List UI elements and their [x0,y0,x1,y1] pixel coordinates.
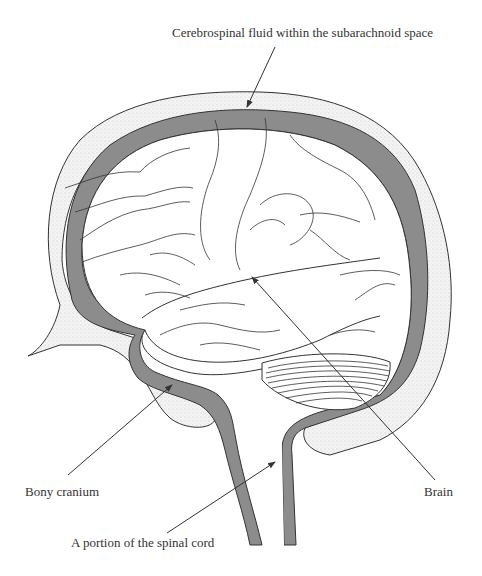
label-brain: Brain [424,485,453,498]
label-csf: Cerebrospinal fluid within the subarachn… [172,26,433,39]
label-bony-cranium: Bony cranium [25,485,99,498]
cranium-pointer [68,385,172,475]
label-spinal-cord: A portion of the spinal cord [71,536,214,549]
